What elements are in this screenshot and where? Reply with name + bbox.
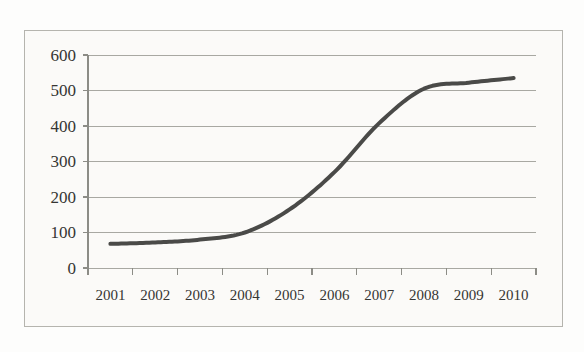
y-tick-label-500: 500 <box>24 82 76 99</box>
y-tick-label-400: 400 <box>24 118 76 135</box>
y-tick-label-0: 0 <box>24 260 76 277</box>
data-series-line <box>110 78 513 244</box>
y-tick-label-100: 100 <box>24 224 76 241</box>
y-axis-ticks <box>83 55 88 268</box>
x-axis-ticks <box>88 268 536 275</box>
y-tick-label-600: 600 <box>24 47 76 64</box>
x-tick-label-2010: 2010 <box>488 288 540 303</box>
chart-figure: 600 500 400 300 200 100 0 2001 2002 2003… <box>0 0 584 352</box>
y-tick-label-300: 300 <box>24 153 76 170</box>
gridlines <box>88 55 536 268</box>
y-tick-label-200: 200 <box>24 189 76 206</box>
